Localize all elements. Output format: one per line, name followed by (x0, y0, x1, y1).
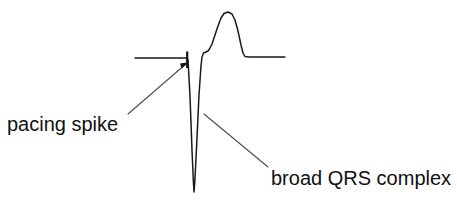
ecg-trace-path (135, 12, 285, 192)
broad-qrs-leader-line (204, 114, 268, 167)
broad-qrs-complex-label: broad QRS complex (271, 168, 451, 188)
pacing-spike-label: pacing spike (7, 114, 118, 134)
pacing-spike-leader-line (128, 63, 187, 114)
ecg-diagram-figure: pacing spike broad QRS complex (0, 0, 457, 207)
